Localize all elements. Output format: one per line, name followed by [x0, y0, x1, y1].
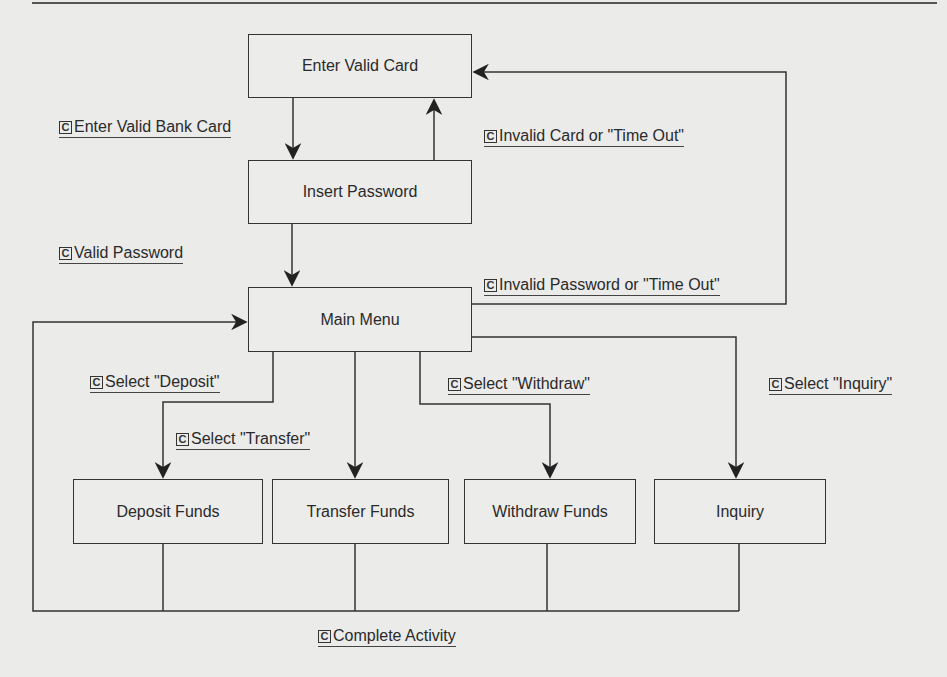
state-label: Inquiry [716, 503, 764, 521]
state-label: Enter Valid Card [302, 57, 418, 75]
transition-label: Select "Inquiry" [784, 375, 892, 393]
transition-label: Complete Activity [333, 627, 456, 645]
transition-label: Enter Valid Bank Card [74, 118, 231, 136]
transition-enter-valid-bank-card: C Enter Valid Bank Card [59, 118, 231, 138]
state-label: Transfer Funds [307, 503, 415, 521]
state-inquiry: Inquiry [654, 479, 826, 544]
state-withdraw-funds: Withdraw Funds [464, 479, 636, 544]
condition-icon: C [448, 378, 461, 391]
condition-icon: C [59, 247, 72, 260]
transition-label: Invalid Password or "Time Out" [499, 276, 720, 294]
condition-icon: C [318, 630, 331, 643]
transition-valid-password: C Valid Password [59, 244, 183, 264]
transition-select-inquiry: C Select "Inquiry" [769, 375, 892, 395]
transition-label: Invalid Card or "Time Out" [499, 127, 684, 145]
connectors [0, 0, 947, 677]
transition-select-deposit: C Select "Deposit" [90, 373, 220, 393]
transition-select-transfer: C Select "Transfer" [176, 430, 310, 450]
condition-icon: C [90, 376, 103, 389]
condition-icon: C [484, 130, 497, 143]
state-label: Withdraw Funds [492, 503, 608, 521]
transition-select-withdraw: C Select "Withdraw" [448, 375, 590, 395]
condition-icon: C [769, 378, 782, 391]
transition-label: Valid Password [74, 244, 183, 262]
transition-invalid-card-or-timeout: C Invalid Card or "Time Out" [484, 127, 684, 147]
condition-icon: C [176, 433, 189, 446]
state-label: Deposit Funds [116, 503, 219, 521]
condition-icon: C [59, 121, 72, 134]
transition-label: Select "Deposit" [105, 373, 220, 391]
state-label: Main Menu [320, 311, 399, 329]
condition-icon: C [484, 279, 497, 292]
state-transfer-funds: Transfer Funds [272, 479, 449, 544]
state-enter-valid-card: Enter Valid Card [248, 34, 472, 98]
state-main-menu: Main Menu [248, 287, 472, 352]
state-insert-password: Insert Password [248, 160, 472, 224]
transition-label: Select "Withdraw" [463, 375, 590, 393]
atm-state-diagram: Enter Valid Card Insert Password Main Me… [0, 0, 947, 677]
transition-complete-activity: C Complete Activity [318, 627, 456, 647]
transition-label: Select "Transfer" [191, 430, 310, 448]
state-deposit-funds: Deposit Funds [73, 479, 263, 544]
state-label: Insert Password [303, 183, 418, 201]
transition-invalid-password-or-timeout: C Invalid Password or "Time Out" [484, 276, 720, 296]
